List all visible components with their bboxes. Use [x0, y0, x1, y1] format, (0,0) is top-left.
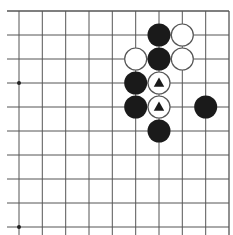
- go-board-grid: [0, 0, 233, 235]
- white-stone[interactable]: [125, 48, 147, 70]
- black-stone[interactable]: [148, 48, 171, 71]
- black-stone[interactable]: [124, 96, 147, 119]
- black-stone[interactable]: [148, 120, 171, 143]
- star-point-icon: [17, 81, 21, 85]
- black-stone[interactable]: [148, 24, 171, 47]
- white-stone[interactable]: [171, 48, 193, 70]
- star-point-icon: [17, 225, 21, 229]
- go-board[interactable]: [0, 0, 233, 235]
- black-stone[interactable]: [194, 96, 217, 119]
- white-stone[interactable]: [171, 24, 193, 46]
- black-stone[interactable]: [124, 72, 147, 95]
